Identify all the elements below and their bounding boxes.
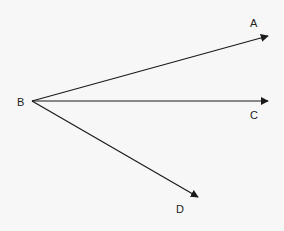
ray-ba: A: [32, 17, 268, 101]
diagram-canvas: A C D B: [0, 0, 284, 231]
point-d-label: D: [176, 203, 184, 215]
ray-ba-line: [32, 36, 268, 101]
point-c-label: C: [250, 109, 258, 121]
ray-bd-line: [32, 101, 198, 197]
ray-bc: C: [32, 101, 268, 121]
point-b-label: B: [17, 96, 24, 108]
point-a-label: A: [250, 17, 258, 29]
ray-bd: D: [32, 101, 198, 215]
